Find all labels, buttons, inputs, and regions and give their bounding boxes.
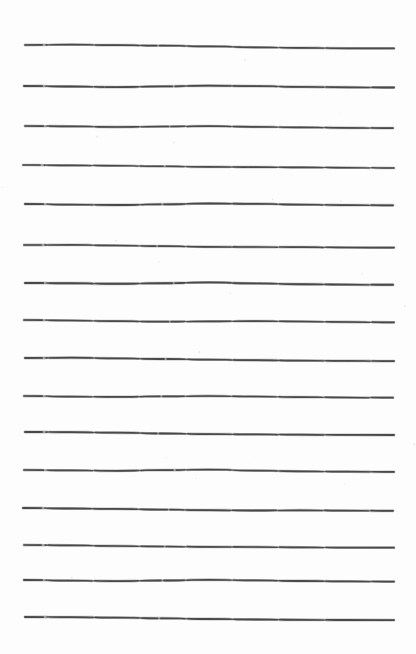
paper-speck: [341, 113, 342, 114]
paper-speck: [198, 351, 200, 353]
paper-speck: [362, 552, 363, 553]
paper-speck: [195, 478, 196, 479]
paper-speck: [230, 293, 231, 294]
paper-speck: [344, 483, 345, 484]
paper-speck: [96, 136, 98, 138]
paper-speck: [244, 59, 246, 61]
paper-speck: [132, 246, 133, 247]
lines-layer: [23, 45, 394, 621]
paper-speck: [158, 261, 159, 262]
paper-speck: [93, 284, 95, 286]
paper-speck: [71, 577, 73, 579]
paper-speck: [173, 142, 175, 144]
paper-speck: [340, 201, 341, 202]
paper-speck: [166, 457, 167, 458]
paper-canvas: [0, 0, 416, 654]
paper-speck: [115, 240, 117, 242]
paper-speck: [255, 457, 256, 458]
paper-specks-layer: [2, 59, 415, 578]
paper-speck: [352, 458, 353, 459]
paper-speck: [392, 281, 393, 282]
paper-speck: [413, 444, 415, 446]
paper-speck: [330, 125, 332, 127]
paper-speck: [104, 86, 106, 88]
ruled-lines-group: [0, 0, 416, 654]
paper-speck: [362, 274, 363, 275]
paper-speck: [2, 187, 3, 188]
paper-speck: [272, 198, 274, 200]
paper-speck: [404, 305, 406, 307]
